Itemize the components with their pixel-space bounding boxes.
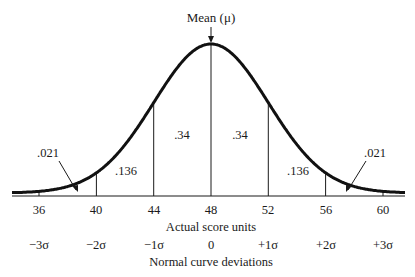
x-tick-label: 60 bbox=[377, 203, 390, 217]
area-label-left-tail: .021 bbox=[37, 146, 59, 160]
area-label-left-2sd: .136 bbox=[115, 164, 137, 178]
sigma-tick-label: +1σ bbox=[258, 238, 278, 252]
mean-arrow-icon bbox=[208, 36, 214, 43]
x-tick-label: 36 bbox=[33, 203, 46, 217]
sigma-tick-label: −1σ bbox=[144, 238, 164, 252]
normal-curve bbox=[12, 44, 405, 193]
x-tick-label: 56 bbox=[320, 203, 333, 217]
area-label-left-1sd: .34 bbox=[174, 128, 190, 142]
area-label-right-2sd: .136 bbox=[287, 164, 309, 178]
area-label-right-tail: .021 bbox=[364, 146, 386, 160]
sigma-tick-label: 0 bbox=[208, 238, 214, 252]
normal-curve-chart: Mean (μ) .021 .136 .34 .34 .136 .021 36 … bbox=[0, 0, 415, 277]
sigma-tick-label: +2σ bbox=[316, 238, 336, 252]
x-tick-label: 40 bbox=[90, 203, 103, 217]
x-tick-label: 52 bbox=[262, 203, 275, 217]
sigma-tick-label: −3σ bbox=[29, 238, 49, 252]
sigma-axis-title: Normal curve deviations bbox=[149, 255, 273, 269]
x-axis-title: Actual score units bbox=[166, 220, 256, 234]
x-tick-label: 44 bbox=[148, 203, 161, 217]
right-tail-arrow-icon bbox=[346, 185, 352, 192]
sigma-tick-label: −2σ bbox=[86, 238, 106, 252]
left-tail-arrow-icon bbox=[72, 185, 78, 192]
area-label-right-1sd: .34 bbox=[232, 128, 248, 142]
mean-label: Mean (μ) bbox=[187, 10, 235, 25]
sigma-tick-label: +3σ bbox=[373, 238, 393, 252]
x-tick-label: 48 bbox=[205, 203, 218, 217]
